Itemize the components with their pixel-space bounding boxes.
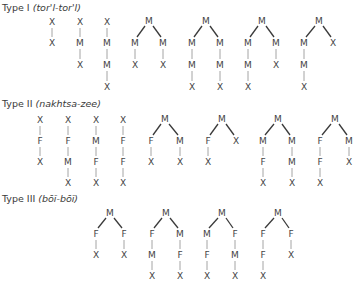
kin-node-x: X — [273, 60, 279, 70]
kin-node-m: M — [272, 38, 280, 48]
kin-node-m: M — [288, 157, 296, 167]
kin-node-x: X — [204, 271, 210, 281]
kin-node-m: M — [103, 38, 111, 48]
kin-node-x: X — [121, 250, 127, 260]
sibling-branch-line — [210, 124, 218, 135]
sibling-branch-line — [339, 124, 347, 135]
linear-chain: XFMX — [64, 115, 72, 188]
sibling-branch-line — [153, 124, 161, 135]
kin-node-x: X — [233, 136, 239, 146]
kin-node-m: M — [188, 60, 196, 70]
kin-node-f: F — [260, 157, 265, 167]
kin-node-f: F — [121, 229, 126, 239]
kin-node-root-m: M — [162, 208, 170, 218]
sibling-branch-line — [153, 26, 161, 37]
kin-node-x: X — [260, 271, 266, 281]
kin-node-root-m: M — [315, 16, 323, 26]
kin-node-x: X — [148, 157, 154, 167]
kin-node-x: X — [93, 250, 99, 260]
sibling-branch-line — [250, 26, 258, 37]
branching-tree: MMFXFMX — [203, 208, 239, 281]
kin-node-root-m: M — [331, 114, 339, 124]
kin-node-f: F — [288, 229, 293, 239]
branching-tree: MFXX — [205, 114, 239, 167]
kin-node-f: F — [120, 136, 125, 146]
sibling-branch-line — [98, 218, 106, 228]
kin-node-m: M — [203, 229, 211, 239]
sibling-branch-line — [169, 124, 178, 135]
kin-node-m: M — [216, 38, 224, 48]
kin-node-root-m: M — [258, 16, 266, 26]
kin-node-root-m: M — [218, 208, 226, 218]
linear-chain: XFFX — [120, 115, 126, 188]
linear-chain: XFX — [37, 115, 43, 167]
kin-node-x: X — [104, 82, 110, 92]
kin-node-m: M — [103, 60, 111, 70]
kin-node-m: M — [176, 229, 184, 239]
kin-node-x: X — [37, 115, 43, 125]
kin-node-m: M — [244, 60, 252, 70]
section-heading: Type III (bōĭ-bōĭ) — [1, 193, 78, 204]
kin-node-m: M — [131, 38, 139, 48]
kin-node-x: X — [330, 38, 336, 48]
kin-node-x: X — [93, 178, 99, 188]
kin-node-root-m: M — [106, 208, 114, 218]
section-pronunciation: (nakhtsa-zee) — [35, 98, 100, 109]
branching-tree: MFXMX — [148, 114, 184, 167]
sections-layer: Type I (tor'l-tor'l)XXXMXXMMXMMXMXMMMXMM… — [1, 2, 353, 281]
sibling-branch-line — [209, 218, 218, 228]
kin-node-m: M — [300, 60, 308, 70]
kin-node-x: X — [217, 82, 223, 92]
sibling-branch-line — [210, 26, 218, 37]
sibling-branch-line — [323, 26, 331, 37]
kin-node-x: X — [65, 115, 71, 125]
branching-tree: MFMXMFX — [148, 208, 184, 281]
sibling-branch-line — [114, 218, 122, 228]
kin-node-root-m: M — [202, 16, 210, 26]
kin-node-f: F — [260, 250, 265, 260]
kin-node-m: M — [64, 157, 72, 167]
kin-node-root-m: M — [274, 114, 282, 124]
kin-node-x: X — [317, 178, 323, 188]
kin-node-m: M — [231, 250, 239, 260]
kinship-diagram: Type I (tor'l-tor'l)XXXMXXMMXMMXMXMMMXMM… — [0, 0, 358, 291]
kin-node-root-m: M — [145, 16, 153, 26]
section-label: Type III — [1, 193, 38, 204]
branching-tree: MFXFX — [93, 208, 127, 260]
kin-node-x: X — [189, 82, 195, 92]
kin-node-f: F — [149, 229, 154, 239]
linear-chain: XMFX — [92, 115, 100, 188]
sibling-branch-line — [265, 218, 274, 228]
sibling-branch-line — [265, 124, 274, 135]
section-type-iii: Type III (bōĭ-bōĭ)MFXFXMFMXMFXMMFXFMXMFF… — [1, 193, 294, 281]
sibling-branch-line — [266, 26, 274, 37]
kin-node-root-m: M — [161, 114, 169, 124]
section-label: Type I — [1, 2, 33, 13]
kin-node-m: M — [76, 38, 84, 48]
branching-tree: MMFXMMX — [259, 114, 296, 188]
section-heading: Type II (nakhtsa-zee) — [1, 98, 101, 109]
sibling-branch-line — [226, 124, 234, 135]
kin-node-x: X — [301, 82, 307, 92]
kin-node-x: X — [77, 17, 83, 27]
kin-node-f: F — [93, 229, 98, 239]
kin-node-m: M — [159, 38, 167, 48]
kin-node-f: F — [93, 157, 98, 167]
sibling-branch-line — [306, 26, 315, 37]
kin-node-m: M — [148, 250, 156, 260]
kin-node-root-m: M — [274, 208, 282, 218]
sibling-branch-line — [137, 26, 145, 37]
kin-node-x: X — [37, 157, 43, 167]
kin-node-x: X — [149, 271, 155, 281]
section-type-ii: Type II (nakhtsa-zee)XFXXFMXXMFXXFFXMFXM… — [1, 98, 353, 188]
kin-node-x: X — [160, 60, 166, 70]
kin-node-x: X — [120, 115, 126, 125]
kin-node-x: X — [120, 178, 126, 188]
linear-chain: XMX — [76, 17, 84, 70]
kin-node-x: X — [65, 178, 71, 188]
kin-node-x: X — [177, 271, 183, 281]
branching-tree: MFFXMX — [317, 114, 353, 188]
kin-node-f: F — [204, 250, 209, 260]
sibling-branch-line — [154, 218, 162, 228]
kin-node-x: X — [288, 250, 294, 260]
